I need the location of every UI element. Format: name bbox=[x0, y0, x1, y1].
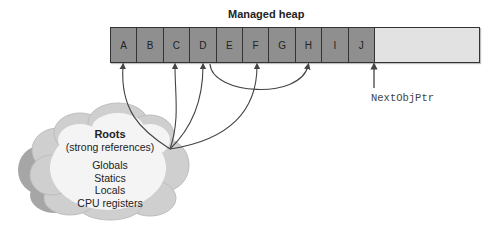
heap-object-e: E bbox=[217, 28, 243, 62]
heap-object-c: C bbox=[164, 28, 190, 62]
heap-object-d: D bbox=[190, 28, 216, 62]
root-item-statics: Statics bbox=[60, 172, 160, 185]
roots-subtitle: (strong references) bbox=[60, 141, 160, 154]
roots-title: Roots bbox=[60, 128, 160, 141]
heap-object-a: A bbox=[111, 28, 137, 62]
heap-object-h: H bbox=[296, 28, 322, 62]
managed-heap: A B C D E F G H I J bbox=[110, 27, 480, 63]
heap-free-space bbox=[375, 28, 479, 62]
next-obj-ptr-label: NextObjPtr bbox=[371, 92, 434, 104]
object-reference-d-to-h bbox=[210, 64, 308, 89]
heap-object-b: B bbox=[137, 28, 163, 62]
heap-object-g: G bbox=[269, 28, 295, 62]
roots-text: Roots (strong references) Globals Static… bbox=[60, 128, 160, 209]
heap-object-i: I bbox=[322, 28, 348, 62]
root-item-locals: Locals bbox=[60, 184, 160, 197]
heap-object-j: J bbox=[349, 28, 375, 62]
heap-object-f: F bbox=[243, 28, 269, 62]
root-item-globals: Globals bbox=[60, 159, 160, 172]
root-item-cpu-registers: CPU registers bbox=[60, 197, 160, 210]
